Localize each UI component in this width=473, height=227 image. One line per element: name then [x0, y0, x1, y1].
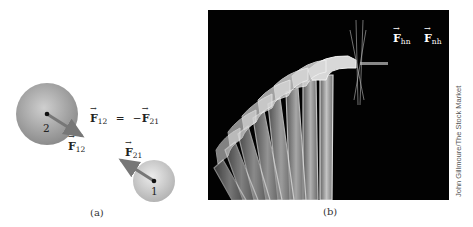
force-12-label: F12 [68, 140, 85, 154]
photo-credit: John Gillmoure/The Stock Market [454, 86, 463, 197]
caption-b: (b) [323, 206, 337, 217]
panel-a: 2 1 F12 F21 F12 = −F21 (a) [0, 0, 200, 227]
particle-1-label: 1 [151, 185, 158, 197]
caption-a: (a) [90, 207, 104, 218]
particle-2-label: 2 [43, 122, 50, 134]
force-21-label: F21 [125, 146, 142, 160]
nail [360, 62, 388, 65]
equation: F12 = −F21 [90, 112, 159, 126]
hammer-nail-photo [208, 10, 449, 200]
multiflash-hammer-image [208, 10, 449, 200]
force-hn-label: Fhn [393, 32, 410, 46]
force-nh-label: Fnh [424, 32, 441, 46]
